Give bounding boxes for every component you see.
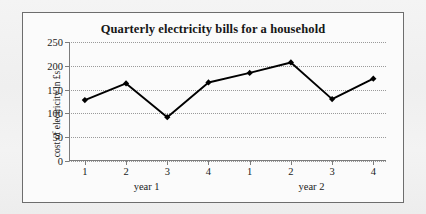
x-tick-mark: [167, 161, 168, 165]
x-axis-group-label: year 2: [299, 181, 325, 192]
data-point-marker: [82, 97, 88, 103]
x-tick-label: 3: [165, 166, 170, 177]
y-tick-label: 0: [58, 156, 63, 167]
x-tick-label: 2: [288, 166, 293, 177]
x-tick-mark: [85, 161, 86, 165]
plot-area: 050100150200250 12341234 year 1year 2: [69, 42, 386, 161]
y-tick-label: 250: [47, 37, 63, 48]
x-tick-mark: [332, 161, 333, 165]
x-axis-group-label: year 1: [134, 181, 160, 192]
x-tick-label: 1: [247, 166, 252, 177]
x-tick-label: 3: [329, 166, 334, 177]
x-tick-label: 4: [206, 166, 211, 177]
data-point-marker: [370, 76, 376, 82]
y-tick-mark: [65, 161, 69, 162]
x-tick-mark: [250, 161, 251, 165]
data-series: [69, 42, 386, 161]
y-tick-label: 150: [47, 84, 63, 95]
y-tick-label: 50: [53, 132, 64, 143]
chart-title: Quarterly electricity bills for a househ…: [23, 22, 403, 37]
x-tick-mark: [373, 161, 374, 165]
data-point-marker: [247, 70, 253, 76]
y-tick-label: 100: [47, 108, 63, 119]
x-tick-mark: [126, 161, 127, 165]
x-tick-mark: [291, 161, 292, 165]
x-tick-label: 2: [123, 166, 128, 177]
chart-frame: Quarterly electricity bills for a househ…: [22, 12, 404, 203]
series-line: [85, 62, 373, 117]
y-tick-label: 200: [47, 60, 63, 71]
x-tick-label: 1: [82, 166, 87, 177]
x-tick-mark: [208, 161, 209, 165]
x-tick-label: 4: [371, 166, 376, 177]
gridline: [69, 161, 386, 162]
